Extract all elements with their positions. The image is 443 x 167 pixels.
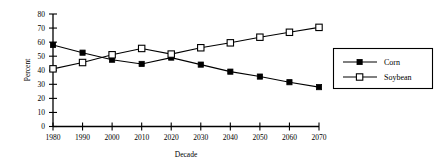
y-tick-label: 40 — [38, 66, 46, 75]
series-layer — [50, 24, 322, 90]
legend-label-corn: Corn — [384, 58, 400, 67]
data-point[interactable] — [228, 69, 233, 74]
x-axis-tick-labels: 1980 1990 2000 2010 2020 2030 2040 2050 … — [46, 133, 327, 142]
data-point[interactable] — [257, 74, 262, 79]
x-tick-label: 2040 — [223, 133, 238, 142]
y-tick-label: 0 — [41, 122, 45, 131]
series-corn — [50, 42, 321, 89]
x-tick-label: 2060 — [282, 133, 297, 142]
y-tick-label: 70 — [38, 24, 46, 33]
x-tick-label: 2010 — [134, 133, 149, 142]
chart-canvas: 80 70 60 50 40 30 20 10 0 1980 1990 — [0, 0, 443, 167]
data-point[interactable] — [287, 80, 292, 85]
y-tick-label: 30 — [38, 80, 46, 89]
data-point[interactable] — [168, 51, 174, 57]
data-point[interactable] — [50, 42, 55, 47]
y-axis-tick-labels: 80 70 60 50 40 30 20 10 0 — [38, 10, 46, 132]
data-point[interactable] — [198, 62, 203, 67]
y-tick-label: 20 — [38, 94, 46, 103]
data-point[interactable] — [227, 40, 233, 46]
series-line-soybean — [53, 27, 319, 68]
data-point[interactable] — [198, 45, 204, 51]
x-tick-label: 1990 — [75, 133, 90, 142]
y-axis-title: Percent — [23, 58, 32, 81]
x-tick-label: 2020 — [164, 133, 179, 142]
data-point[interactable] — [286, 29, 292, 35]
x-axis-title: Decade — [175, 150, 198, 159]
data-point[interactable] — [138, 45, 144, 51]
data-point[interactable] — [79, 59, 85, 65]
data-point[interactable] — [139, 61, 144, 66]
legend: Corn Soybean — [334, 49, 433, 89]
y-tick-label: 10 — [38, 108, 46, 117]
line-chart: 80 70 60 50 40 30 20 10 0 1980 1990 — [0, 0, 443, 167]
data-point[interactable] — [257, 34, 263, 40]
data-point[interactable] — [50, 66, 56, 72]
filled-square-icon — [357, 59, 362, 64]
x-tick-label: 2030 — [193, 133, 208, 142]
data-point[interactable] — [316, 24, 322, 30]
x-tick-label: 1980 — [46, 133, 61, 142]
legend-box — [334, 49, 433, 89]
data-point[interactable] — [316, 85, 321, 90]
hollow-square-icon — [356, 74, 362, 80]
data-point[interactable] — [80, 50, 85, 55]
series-soybean — [50, 24, 322, 72]
x-tick-label: 2070 — [312, 133, 327, 142]
y-tick-label: 60 — [38, 38, 46, 47]
y-tick-label: 50 — [38, 52, 46, 61]
data-point[interactable] — [109, 52, 115, 58]
x-tick-label: 2050 — [252, 133, 267, 142]
x-tick-label: 2000 — [105, 133, 120, 142]
y-tick-label: 80 — [38, 10, 46, 19]
legend-label-soybean: Soybean — [384, 73, 412, 82]
